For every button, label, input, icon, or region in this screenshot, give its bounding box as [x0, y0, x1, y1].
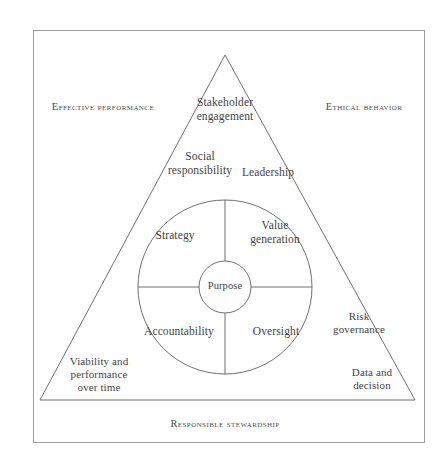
triangle-label-leadership: Leadership: [230, 166, 306, 180]
quadrant-label-accountability: Accountability: [133, 325, 225, 339]
edge-label-right: Ethical behavior: [312, 100, 416, 114]
figure-root: Effective performance Ethical behavior R…: [0, 0, 445, 469]
diagram-canvas: [0, 0, 445, 469]
edge-label-bottom: Responsible stewardship: [125, 418, 325, 430]
triangle-label-apex: Stakeholder engagement: [178, 96, 272, 123]
quadrant-label-oversight: Oversight: [236, 325, 316, 339]
triangle-label-data-and-decision: Data and decision: [332, 366, 412, 392]
edge-label-left: Effective performance: [48, 100, 158, 114]
core-label-purpose: Purpose: [193, 280, 257, 292]
quadrant-label-value-generation: Value generation: [236, 219, 314, 246]
triangle-label-viability: Viability and performance over time: [56, 355, 142, 394]
triangle-label-risk-governance: Risk governance: [316, 310, 402, 336]
quadrant-label-strategy: Strategy: [133, 229, 217, 243]
